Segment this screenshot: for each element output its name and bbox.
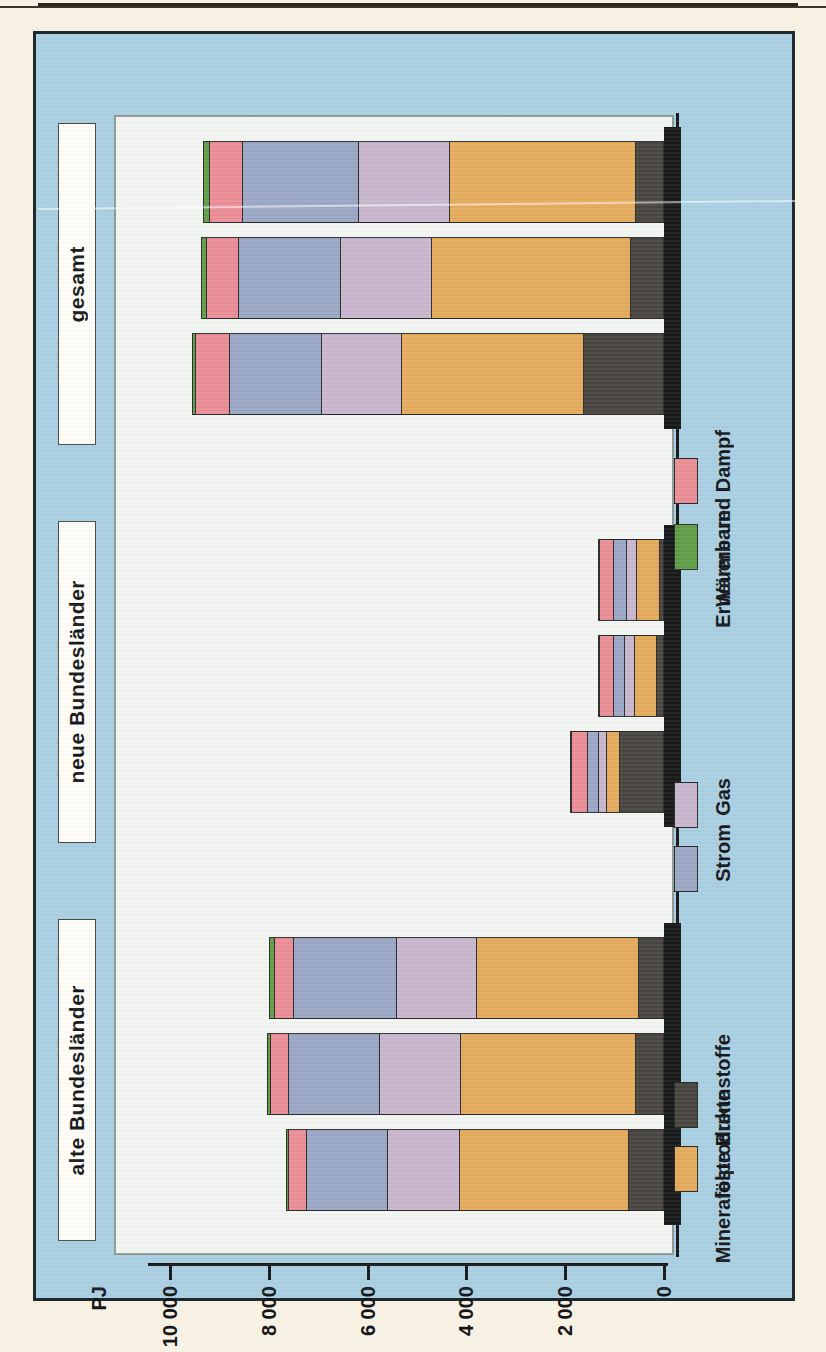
- bar-segment-feste-brennstoffe: [629, 1130, 663, 1210]
- bar-segment-mineralölprodukte: [637, 540, 660, 620]
- bar-segment-feste-brennstoffe: [584, 334, 663, 414]
- scale-label-10000: 10 000: [159, 1286, 182, 1347]
- bar-segment-strom: [614, 540, 626, 620]
- legend-swatch-gas: [674, 782, 698, 828]
- legend-label-strom: Strom: [712, 824, 735, 882]
- scale-label-4000: 4 000: [455, 1286, 478, 1336]
- bar-segment-strom: [294, 938, 397, 1018]
- group-label-neue: neue Bundesländer: [58, 521, 96, 843]
- group-label-text: neue Bundesländer: [65, 580, 89, 783]
- bar-segment-mineralölprodukte: [460, 1130, 629, 1210]
- legend-swatch-feste-brennstoffe: [674, 1082, 698, 1128]
- chart-panel: 202020051990202020051990202020051990 10 …: [33, 31, 795, 1301]
- bar-segment-erneuerbare: [204, 142, 211, 222]
- bar-segment-wärme-und-dampf: [196, 334, 230, 414]
- group-label-alte: alte Bundesländer: [58, 919, 96, 1241]
- bar-segment-strom: [614, 636, 625, 716]
- scale-tick-4000: [465, 1263, 468, 1280]
- bar-segment-feste-brennstoffe: [631, 238, 663, 318]
- bar-segment-wärme-und-dampf: [207, 238, 239, 318]
- bar-segment-wärme-und-dampf: [600, 636, 613, 716]
- bar-gesamt-1990: [192, 333, 664, 415]
- bar-segment-gas: [388, 1130, 459, 1210]
- bar-segment-gas: [599, 732, 608, 812]
- bar-segment-feste-brennstoffe: [639, 938, 663, 1018]
- bar-segment-feste-brennstoffe: [620, 732, 663, 812]
- scale-label-2000: 2 000: [554, 1286, 577, 1336]
- group-label-text: gesamt: [65, 246, 89, 323]
- bar-gesamt-2020: [203, 141, 664, 223]
- bar-segment-strom: [243, 142, 359, 222]
- legend-label-erneuerbare: Erneuerbare: [712, 510, 735, 628]
- bar-segment-strom: [239, 238, 342, 318]
- bar-alte-bundesländer-1990: [286, 1129, 664, 1211]
- bar-segment-wärme-und-dampf: [210, 142, 243, 222]
- bar-segment-mineralölprodukte: [450, 142, 636, 222]
- bar-segment-gas: [359, 142, 450, 222]
- bar-segment-strom: [588, 732, 599, 812]
- bar-neue-bundesländer-1990: [570, 731, 664, 813]
- legend-label-gas: Gas: [712, 778, 735, 816]
- bar-segment-feste-brennstoffe: [657, 636, 663, 716]
- scale-label-6000: 6 000: [357, 1286, 380, 1336]
- legend-swatch-mineraloelprodukte: [674, 1146, 698, 1192]
- legend-swatch-erneuerbare: [674, 524, 698, 570]
- bar-segment-gas: [380, 1034, 461, 1114]
- bar-segment-mineralölprodukte: [402, 334, 584, 414]
- scale-tick-0: [663, 1263, 666, 1280]
- bar-alte-bundesländer-2020: [269, 937, 664, 1019]
- bar-segment-gas: [397, 938, 478, 1018]
- bar-segment-gas: [625, 636, 635, 716]
- bar-segment-gas: [627, 540, 637, 620]
- bar-neue-bundesländer-2005: [598, 635, 664, 717]
- bars-layer: [114, 115, 674, 1255]
- scale-label-8000: 8 000: [258, 1286, 281, 1336]
- legend-swatch-waerme-und-dampf: [674, 458, 698, 504]
- bar-segment-wärme-und-dampf: [289, 1130, 307, 1210]
- bar-neue-bundesländer-2020: [598, 539, 664, 621]
- scale-axis-line: [148, 1263, 668, 1266]
- bar-segment-feste-brennstoffe: [636, 142, 663, 222]
- bar-segment-mineralölprodukte: [607, 732, 620, 812]
- bar-segment-strom: [289, 1034, 380, 1114]
- bar-segment-mineralölprodukte: [432, 238, 630, 318]
- bar-gesamt-2005: [201, 237, 664, 319]
- bar-segment-feste-brennstoffe: [636, 1034, 663, 1114]
- legend-swatch-strom: [674, 846, 698, 892]
- bar-segment-mineralölprodukte: [635, 636, 657, 716]
- bar-segment-gas: [322, 334, 402, 414]
- bar-segment-wärme-und-dampf: [572, 732, 588, 812]
- bar-segment-wärme-und-dampf: [600, 540, 614, 620]
- bar-segment-gas: [341, 238, 432, 318]
- scale-tick-10000: [169, 1263, 172, 1280]
- bar-segment-mineralölprodukte: [477, 938, 639, 1018]
- group-label-gesamt: gesamt: [58, 123, 96, 445]
- page-top-rule-secondary: [0, 6, 826, 8]
- bar-segment-strom: [230, 334, 322, 414]
- axis-unit-label: PJ: [88, 1286, 111, 1310]
- group-label-text: alte Bundesländer: [65, 985, 89, 1176]
- scale-tick-8000: [268, 1263, 271, 1280]
- scale-tick-2000: [564, 1263, 567, 1280]
- bar-segment-wärme-und-dampf: [275, 938, 294, 1018]
- group-bracket-0: [664, 127, 681, 429]
- bar-segment-mineralölprodukte: [461, 1034, 636, 1114]
- legend-label-mineralölprodukte: Mineralölprodukte: [712, 1090, 735, 1263]
- scale-label-0: 0: [653, 1286, 676, 1297]
- bar-segment-wärme-und-dampf: [271, 1034, 289, 1114]
- scale-tick-6000: [367, 1263, 370, 1280]
- bar-segment-feste-brennstoffe: [660, 540, 663, 620]
- bar-segment-strom: [307, 1130, 389, 1210]
- bar-alte-bundesländer-2005: [267, 1033, 664, 1115]
